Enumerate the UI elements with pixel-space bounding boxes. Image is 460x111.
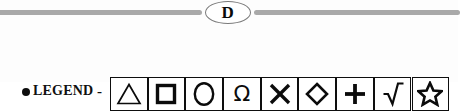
divider-rule-left xyxy=(0,10,202,15)
diamond-icon xyxy=(305,82,329,106)
legend-symbol-cell-omega: Ω xyxy=(223,77,261,111)
legend-symbol-cell-radical xyxy=(374,77,412,111)
legend-row: LEGEND - xyxy=(0,38,458,78)
legend-symbol-cell-diamond xyxy=(298,77,336,111)
legend-symbol-strip: Ω xyxy=(110,77,449,111)
legend-dash: - xyxy=(97,83,102,99)
legend-label: LEGEND xyxy=(33,83,93,99)
omega-icon: Ω xyxy=(233,83,250,105)
x-icon xyxy=(268,82,292,106)
plus-icon xyxy=(343,82,367,106)
legend-symbol-cell-triangle xyxy=(110,77,148,111)
circle-icon xyxy=(192,81,216,107)
legend-symbol-cell-x xyxy=(261,77,299,111)
bullet-icon xyxy=(22,88,30,96)
legend-symbol-cell-plus xyxy=(336,77,374,111)
section-badge: D xyxy=(205,1,251,24)
section-badge-letter: D xyxy=(222,4,235,22)
legend-symbol-cell-square xyxy=(148,77,186,111)
divider-rule-right xyxy=(254,10,460,15)
legend-symbol-cell-star xyxy=(412,77,450,111)
triangle-icon xyxy=(116,82,142,106)
square-root-icon xyxy=(381,81,405,107)
square-icon xyxy=(155,83,177,105)
legend-symbol-cell-circle xyxy=(185,77,223,111)
star-icon xyxy=(417,81,443,107)
